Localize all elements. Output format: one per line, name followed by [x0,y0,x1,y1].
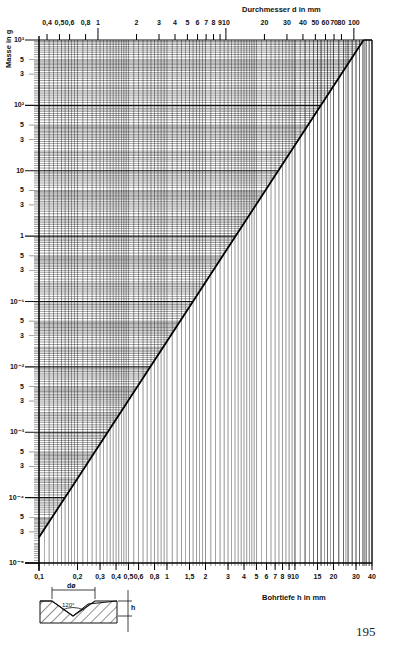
x-top-tick-label: 0,5 [55,19,65,26]
x-top-tick-label: 50 [311,19,319,26]
x-bottom-tick-label: 20 [330,573,338,580]
y-tick-label: 5 [20,56,24,63]
x-bottom-tick-label: 0,3 [95,573,105,580]
x-top-tick-label: 0,4 [42,19,52,26]
x-top-tick-label: 0,8 [81,19,91,26]
x-top-tick-label: 8 [212,19,216,26]
x-bottom-tick-label: 40 [368,573,376,580]
x-top-tick-label: 80 [338,19,346,26]
x-bottom-tick-label: 1 [165,573,169,580]
page-number: 195 [356,624,376,640]
x-bottom-tick-label: 3 [226,573,230,580]
x-top-tick-label: 100 [348,19,360,26]
y-tick-label: 5 [20,448,24,455]
diagram-diameter-label: dø [67,582,76,589]
y-tick-label: 1 [20,232,24,239]
x-top-tick-label: 0,6 [65,19,75,26]
axes [25,36,372,571]
x-bottom-tick-label: 0,4 [111,573,121,580]
x-top-tick-label: 10 [222,19,230,26]
horizontal-gridlines [25,40,372,563]
y-tick-label: 10 [16,167,24,174]
y-tick-label: 5 [20,121,24,128]
x-top-tick-label: 2 [135,19,139,26]
x-bottom-tick-label: 4 [242,573,246,580]
x-top-tick-label: 3 [157,19,161,26]
diagram-angle-label: 120° [62,602,74,608]
y-tick-label: 10⁻⁴ [9,494,24,501]
y-tick-label: 5 [20,186,24,193]
x-bottom-tick-label: 7 [273,573,277,580]
y-axis-title: Masse in g [4,30,13,68]
x-bottom-tick-label: 0,6 [134,573,144,580]
y-tick-label: 3 [20,266,24,273]
x-top-tick-label: 1 [96,19,100,26]
y-tick-label: 3 [20,462,24,469]
y-tick-label: 10² [14,101,24,108]
drill-cone-diagram [40,587,132,632]
y-tick-label: 3 [20,332,24,339]
top-axis-title: Durchmesser d in mm [242,5,321,14]
x-top-tick-label: 7 [204,19,208,26]
y-tick-label: 3 [20,136,24,143]
y-tick-label: 5 [20,513,24,520]
y-tick-label: 5 [20,252,24,259]
y-tick-label: 5 [20,383,24,390]
x-top-tick-label: 20 [261,19,269,26]
x-bottom-tick-label: 1,5 [185,573,195,580]
x-bottom-tick-label: 10 [291,573,299,580]
x-top-tick-label: 5 [185,19,189,26]
x-bottom-tick-label: 15 [314,573,322,580]
diagram-depth-label: h [131,604,135,611]
x-bottom-tick-label: 0,8 [150,573,160,580]
y-tick-label: 10⁻³ [10,428,24,435]
x-bottom-tick-label: 5 [254,573,258,580]
y-tick-label: 3 [20,201,24,208]
x-bottom-tick-label: 8 [281,573,285,580]
x-top-tick-label: 30 [283,19,291,26]
x-bottom-tick-label: 30 [352,573,360,580]
y-tick-label: 10⁻² [10,363,24,370]
y-tick-label: 3 [20,70,24,77]
x-top-tick-label: 40 [299,19,307,26]
y-tick-label: 10⁻¹ [10,298,24,305]
x-bottom-tick-label: 0,5 [124,573,134,580]
nomogram-chart [0,0,399,645]
x-top-tick-label: 60 [322,19,330,26]
y-tick-label: 3 [20,397,24,404]
y-tick-label: 3 [20,528,24,535]
x-bottom-tick-label: 0,2 [73,573,83,580]
y-tick-label: 10⁻⁵ [9,559,24,566]
y-tick-label: 10³ [14,36,24,43]
x-top-tick-label: 6 [196,19,200,26]
bottom-axis-title: Bohrtiefe h in mm [262,593,326,602]
y-tick-label: 5 [20,317,24,324]
x-bottom-tick-label: 2 [204,573,208,580]
x-top-tick-label: 4 [173,19,177,26]
x-bottom-tick-label: 6 [265,573,269,580]
x-bottom-tick-label: 0,1 [34,573,44,580]
